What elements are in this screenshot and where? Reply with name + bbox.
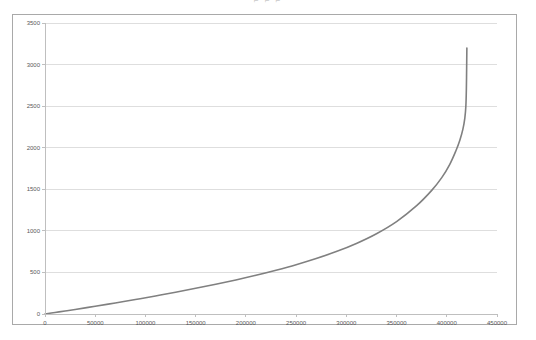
clipped-caption: ⌐ ⌐ ⌐ [0, 0, 536, 8]
x-tick-label: 350000 [387, 320, 407, 326]
plot-area: 0500100015002000250030003500 05000010000… [45, 23, 497, 314]
x-tick-label: 0 [43, 320, 46, 326]
y-tick-label: 1500 [27, 186, 40, 192]
y-tick-label: 3000 [27, 62, 40, 68]
y-tick-label: 2000 [27, 145, 40, 151]
y-tick-label: 2500 [27, 103, 40, 109]
x-tick-label: 100000 [135, 320, 155, 326]
x-tick-label: 250000 [286, 320, 306, 326]
y-tick-label: 500 [30, 269, 40, 275]
x-tick-label: 300000 [336, 320, 356, 326]
y-tick-label: 0 [37, 311, 40, 317]
x-tick-label: 200000 [236, 320, 256, 326]
chart-frame: 0500100015002000250030003500 05000010000… [12, 14, 517, 325]
y-tick-label: 1000 [27, 228, 40, 234]
axes [45, 23, 497, 314]
x-tick-label: 150000 [186, 320, 206, 326]
x-tick-label: 50000 [87, 320, 104, 326]
x-tick-label: 450000 [487, 320, 507, 326]
x-tick-label: 400000 [437, 320, 457, 326]
y-tick-label: 3500 [27, 20, 40, 26]
